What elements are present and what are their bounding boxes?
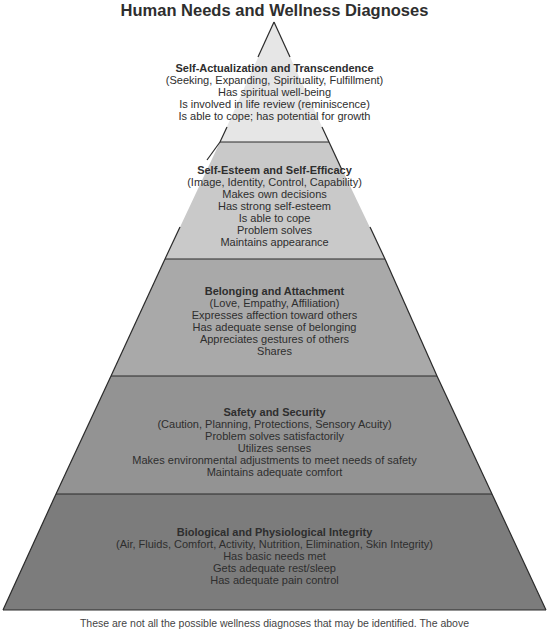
tier-item: Has spiritual well-being	[0, 86, 549, 98]
tier-biological: Biological and Physiological Integrity (…	[0, 526, 549, 586]
tier-item: Is able to cope; has potential for growt…	[0, 110, 549, 122]
tier-item: Has basic needs met	[0, 550, 549, 562]
tier-item: Problem solves	[0, 224, 549, 236]
tier-subtitle: (Caution, Planning, Protections, Sensory…	[0, 418, 549, 430]
tier-item: Gets adequate rest/sleep	[0, 562, 549, 574]
tier-subtitle: (Love, Empathy, Affiliation)	[0, 297, 549, 309]
tier-item: Has adequate pain control	[0, 574, 549, 586]
tier-item: Problem solves satisfactorily	[0, 430, 549, 442]
tier-item: Maintains appearance	[0, 236, 549, 248]
tier-heading: Belonging and Attachment	[0, 285, 549, 297]
tier-item: Shares	[0, 345, 549, 357]
tier-heading: Self-Actualization and Transcendence	[0, 62, 549, 74]
tier-heading: Self-Esteem and Self-Efficacy	[0, 164, 549, 176]
tier-self-actualization: Self-Actualization and Transcendence (Se…	[0, 62, 549, 122]
tier-item: Maintains adequate comfort	[0, 466, 549, 478]
tier-item: Has adequate sense of belonging	[0, 321, 549, 333]
tier-item: Expresses affection toward others	[0, 309, 549, 321]
tier-item: Makes own decisions	[0, 188, 549, 200]
tier-item: Has strong self-esteem	[0, 200, 549, 212]
tier-self-esteem: Self-Esteem and Self-Efficacy (Image, Id…	[0, 164, 549, 248]
tier-heading: Biological and Physiological Integrity	[0, 526, 549, 538]
tier-subtitle: (Seeking, Expanding, Spirituality, Fulfi…	[0, 74, 549, 86]
tier-safety: Safety and Security (Caution, Planning, …	[0, 406, 549, 478]
tier-subtitle: (Air, Fluids, Comfort, Activity, Nutriti…	[0, 538, 549, 550]
tier-item: Is involved in life review (reminiscence…	[0, 98, 549, 110]
tier-item: Makes environmental adjustments to meet …	[0, 454, 549, 466]
tier-item: Utilizes senses	[0, 442, 549, 454]
tier-heading: Safety and Security	[0, 406, 549, 418]
tier-item: Appreciates gestures of others	[0, 333, 549, 345]
footnote: These are not all the possible wellness …	[0, 617, 549, 629]
tier-subtitle: (Image, Identity, Control, Capability)	[0, 176, 549, 188]
tier-belonging: Belonging and Attachment (Love, Empathy,…	[0, 285, 549, 357]
tier-item: Is able to cope	[0, 212, 549, 224]
